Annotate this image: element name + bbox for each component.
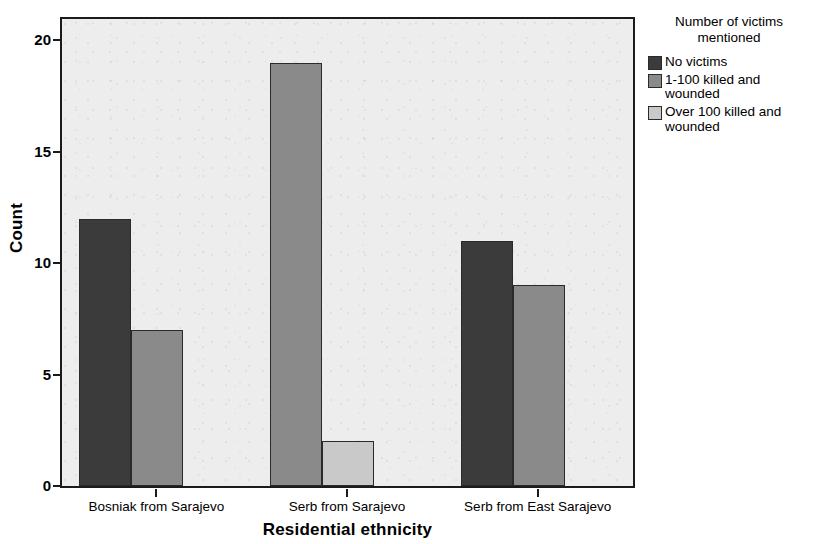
- y-tick-mark: [53, 262, 60, 264]
- legend-items: No victims1-100 killed and woundedOver 1…: [648, 55, 816, 134]
- legend-title-line-1: Number of victims: [675, 14, 783, 29]
- bar-chart-figure: Count 05101520 Bosniak from SarajevoSerb…: [0, 0, 816, 544]
- y-tick-label: 0: [43, 478, 51, 494]
- y-tick-20: 20: [0, 32, 60, 48]
- bar: [513, 285, 565, 486]
- y-tick-label: 10: [34, 255, 51, 271]
- plot-area: [60, 17, 635, 488]
- y-tick-label: 20: [34, 32, 51, 48]
- y-tick-10: 10: [0, 255, 60, 271]
- legend-item: Over 100 killed and wounded: [648, 105, 816, 134]
- y-tick-label: 15: [34, 144, 51, 160]
- y-tick-mark: [53, 151, 60, 153]
- legend-item: No victims: [648, 55, 816, 70]
- x-tick-mark: [155, 489, 157, 497]
- legend-label: 1-100 killed and wounded: [665, 73, 816, 102]
- y-tick-5: 5: [0, 367, 60, 383]
- y-tick-mark: [53, 374, 60, 376]
- y-tick-mark: [53, 39, 60, 41]
- bars-layer: [62, 19, 633, 486]
- y-tick-mark: [53, 485, 60, 487]
- legend-swatch-icon: [648, 74, 662, 88]
- y-tick-15: 15: [0, 144, 60, 160]
- legend-title-line-2: mentioned: [697, 30, 760, 45]
- y-tick-label: 5: [43, 367, 51, 383]
- legend-label: No victims: [665, 55, 727, 70]
- bar: [322, 441, 374, 486]
- bar: [79, 219, 131, 486]
- y-axis-ticks: 05101520: [0, 0, 60, 544]
- legend: Number of victims mentioned No victims1-…: [648, 14, 816, 137]
- bar: [270, 63, 322, 486]
- y-tick-0: 0: [0, 478, 60, 494]
- x-tick-label: Serb from East Sarajevo: [464, 499, 611, 514]
- x-tick-mark: [537, 489, 539, 497]
- x-tick-mark: [346, 489, 348, 497]
- legend-swatch-icon: [648, 106, 662, 120]
- x-tick-label: Serb from Sarajevo: [289, 499, 405, 514]
- legend-label: Over 100 killed and wounded: [665, 105, 816, 134]
- bar: [461, 241, 513, 486]
- bar: [131, 330, 183, 486]
- x-tick-label: Bosniak from Sarajevo: [88, 499, 224, 514]
- legend-item: 1-100 killed and wounded: [648, 73, 816, 102]
- x-axis-title: Residential ethnicity: [60, 520, 635, 540]
- legend-title: Number of victims mentioned: [648, 14, 816, 46]
- legend-swatch-icon: [648, 56, 662, 70]
